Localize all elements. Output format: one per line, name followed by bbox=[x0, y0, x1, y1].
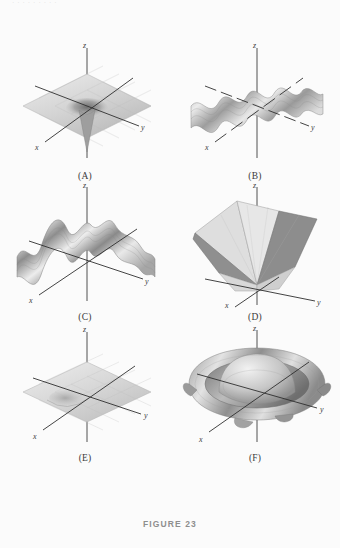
plot-c-x-label: x bbox=[28, 296, 33, 305]
plot-c-y-label: y bbox=[144, 277, 149, 286]
panel-a-label: (A) bbox=[78, 171, 92, 181]
figure-panel-grid: z y x (A) bbox=[0, 40, 340, 463]
plot-d-x-label: x bbox=[224, 301, 229, 310]
panel-c-label: (C) bbox=[78, 312, 91, 322]
plot-b-surface: z y x bbox=[175, 40, 335, 170]
plot-d-surface: z y x bbox=[175, 181, 335, 311]
panel-b: z y x (B) bbox=[170, 40, 340, 181]
panel-f: z y x (F) bbox=[170, 322, 340, 463]
plot-a-y-label: y bbox=[140, 123, 145, 132]
figure-caption: FIGURE 23 bbox=[0, 519, 340, 529]
plot-b-y-label: y bbox=[310, 123, 315, 132]
running-header-text: · · · · · · · · · bbox=[0, 0, 340, 7]
panel-b-label: (B) bbox=[248, 171, 261, 181]
plot-c-z-label: z bbox=[82, 181, 87, 190]
panel-e: z y x (E) bbox=[0, 322, 170, 463]
plot-e-z-label: z bbox=[82, 325, 87, 334]
plot-e-surface: z y x bbox=[5, 322, 165, 452]
plot-b-x-label: x bbox=[204, 143, 209, 152]
plot-f-z-label: z bbox=[252, 324, 257, 333]
panel-d-label: (D) bbox=[248, 312, 262, 322]
plot-f-x-label: x bbox=[198, 435, 203, 444]
panel-a: z y x (A) bbox=[0, 40, 170, 181]
plot-e-x-label: x bbox=[32, 432, 37, 441]
panel-c: z y x (C) bbox=[0, 181, 170, 322]
plot-f-y-label: y bbox=[319, 405, 324, 414]
plot-e-y-label: y bbox=[143, 411, 148, 420]
panel-row-3: z y x (E) bbox=[0, 322, 340, 463]
panel-e-label: (E) bbox=[79, 453, 92, 463]
panel-row-1: z y x (A) bbox=[0, 40, 340, 181]
plot-d-z-label: z bbox=[252, 181, 257, 190]
panel-row-2: z y x (C) bbox=[0, 181, 340, 322]
panel-f-label: (F) bbox=[249, 453, 261, 463]
plot-f-surface: z y x bbox=[175, 322, 335, 452]
plot-a-surface: z y x bbox=[5, 40, 165, 170]
panel-d: z y x (D) bbox=[170, 181, 340, 322]
plot-c-surface: z y x bbox=[5, 181, 165, 311]
plot-a-z-label: z bbox=[82, 41, 87, 50]
plot-a-x-label: x bbox=[34, 143, 39, 152]
plot-b-z-label: z bbox=[252, 41, 257, 50]
plot-d-y-label: y bbox=[316, 298, 321, 307]
figure-page: · · · · · · · · · bbox=[0, 0, 340, 548]
